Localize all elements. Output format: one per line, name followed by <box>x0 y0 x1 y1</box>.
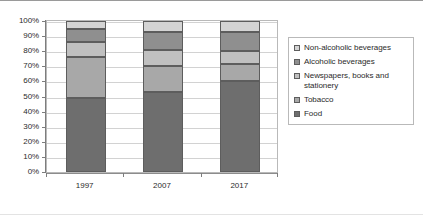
x-axis-tick-label-2007: 2007 <box>123 180 200 191</box>
bar-group-2017 <box>220 21 260 172</box>
stacked-bar[interactable] <box>220 21 260 172</box>
bar-segment[interactable] <box>66 57 106 98</box>
legend-swatch-icon <box>294 97 300 103</box>
bar-segment[interactable] <box>66 98 106 172</box>
legend-swatch-icon <box>294 45 300 51</box>
bar-segment[interactable] <box>143 32 183 51</box>
bar-segment[interactable] <box>66 21 106 29</box>
chart-legend: Non-alcoholic beveragesAlcoholic beverag… <box>288 37 414 125</box>
stacked-bar[interactable] <box>143 21 183 172</box>
bar-segment[interactable] <box>66 42 106 57</box>
legend-item[interactable]: Food <box>294 109 409 119</box>
y-axis-tick-label: 90% <box>23 30 39 41</box>
x-axis-line <box>46 173 278 174</box>
x-axis: 199720072017 <box>46 173 278 195</box>
x-axis-tick-mark <box>201 173 202 177</box>
legend-item[interactable]: Newspapers, books and stationery <box>294 71 409 91</box>
y-axis-tick-label: 80% <box>23 45 39 56</box>
bar-segment[interactable] <box>220 32 260 51</box>
y-axis-tick-label: 40% <box>23 106 39 117</box>
bar-segment[interactable] <box>143 66 183 92</box>
y-axis: 0%10%20%30%40%50%60%70%80%90%100% <box>0 20 46 173</box>
x-axis-tick-mark <box>123 173 124 177</box>
legend-item[interactable]: Tobacco <box>294 95 409 105</box>
y-axis-tick-label: 50% <box>23 91 39 102</box>
y-axis-tick-label: 60% <box>23 75 39 86</box>
bar-segment[interactable] <box>220 64 260 81</box>
bar-segment[interactable] <box>220 51 260 64</box>
legend-item-label: Food <box>304 109 322 119</box>
bar-group-2007 <box>143 21 183 172</box>
bar-segment[interactable] <box>66 29 106 43</box>
bar-group-1997 <box>66 21 106 172</box>
legend-swatch-icon <box>294 59 300 65</box>
bar-segment[interactable] <box>220 21 260 32</box>
bar-segment[interactable] <box>143 50 183 66</box>
y-axis-tick-label: 30% <box>23 121 39 132</box>
chart-container: 0%10%20%30%40%50%60%70%80%90%100% 199720… <box>0 0 423 215</box>
y-axis-tick-label: 0% <box>28 166 39 177</box>
legend-item-label: Non-alcoholic beverages <box>304 43 391 53</box>
y-axis-tick-label: 10% <box>23 151 39 162</box>
legend-item[interactable]: Non-alcoholic beverages <box>294 43 409 53</box>
y-axis-tick-label: 100% <box>19 15 39 26</box>
bar-segment[interactable] <box>143 92 183 172</box>
bar-segment[interactable] <box>220 81 260 172</box>
stacked-bar[interactable] <box>66 21 106 172</box>
bar-segment[interactable] <box>143 21 183 32</box>
x-axis-tick-label-1997: 1997 <box>46 180 123 191</box>
x-axis-tick-mark <box>277 173 278 177</box>
legend-item-label: Alcoholic beverages <box>304 57 375 67</box>
legend-swatch-icon <box>294 111 300 117</box>
plot-area <box>46 20 278 173</box>
legend-item[interactable]: Alcoholic beverages <box>294 57 409 67</box>
x-axis-tick-mark <box>46 173 47 177</box>
legend-item-label: Newspapers, books and stationery <box>304 71 409 91</box>
legend-item-label: Tobacco <box>304 95 333 105</box>
y-axis-tick-label: 70% <box>23 60 39 71</box>
y-axis-tick-label: 20% <box>23 136 39 147</box>
x-axis-tick-label-2017: 2017 <box>201 180 278 191</box>
legend-swatch-icon <box>294 73 300 79</box>
